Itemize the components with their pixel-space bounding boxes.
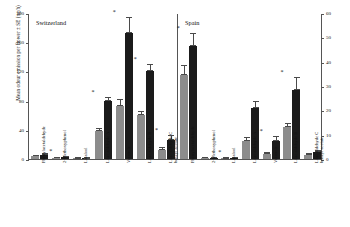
x-axis-label: Lilac aldehyde B [147,132,152,163]
error-bar-cap [126,17,132,18]
error-bar-cap [147,64,153,65]
error-bar-cap [33,155,39,156]
y-tick-label: 120 [17,69,25,74]
significance-asterisk: * [49,148,52,154]
error-bar [129,17,130,33]
bar-gray [95,131,103,159]
bar-group: * [116,13,133,159]
error-bar [56,157,57,158]
bar-group [73,13,90,159]
error-bar [150,64,151,71]
significance-asterisk: * [218,149,221,155]
y2-tick-mark [321,38,324,39]
error-bar-cap [105,97,111,98]
y-tick-label: 40 [19,128,24,133]
bar-gray [242,141,250,159]
bar-gray [180,75,188,159]
error-bar [108,97,109,101]
y2-tick-label: 10 [326,133,331,138]
error-bar-cap [244,137,250,138]
bar-gray [304,155,312,159]
error-bar [255,101,256,108]
bar-group: * [221,13,238,159]
error-bar-cap [105,100,111,101]
y-tick-mark [26,131,29,132]
bar-black [125,33,133,159]
y-tick-mark [26,14,29,15]
x-axis-label: Lilac aldehyde A [105,132,110,163]
x-axis-label: Linalool [83,147,88,163]
x-axis-label: Phenylacetaldehyde [190,126,195,163]
error-bar-cap [294,77,300,78]
error-bar-cap [126,32,132,33]
significance-asterisk: * [92,89,95,95]
x-axis-label: Lilac aldehyde Cbenzyl acetate [314,132,324,163]
error-bar-cap [273,136,279,137]
error-bar [205,157,206,158]
y2-tick-mark [321,111,324,112]
x-axis-label: Lilac aldehyde Cbenzyl acetate [168,132,178,163]
y-tick-mark [26,102,29,103]
y2-tick-label: 40 [326,60,331,65]
x-axis-label: Veratrole [126,146,131,163]
bar-gray [31,156,39,159]
x-axis-label: Linalool [231,147,236,163]
error-bar-cap [253,107,259,108]
bar-gray [116,106,124,159]
error-bar-cap [138,111,144,112]
significance-asterisk: * [113,9,116,15]
y-tick-mark [26,160,29,161]
error-bar-cap [75,157,81,158]
error-bar-cap [253,101,259,102]
error-bar [162,147,163,149]
error-bar-cap [190,45,196,46]
error-bar [308,153,309,154]
x-axis-label: Lilac aldehyde A [252,132,257,163]
error-bar [267,152,268,154]
odour-emission-chart: Mean odour emission per flower ± SE (ng/… [0,0,350,227]
bar-group: * [263,13,280,159]
error-bar [296,77,297,90]
error-bar-cap [202,157,208,158]
significance-asterisk: * [280,69,283,75]
error-bar-cap [223,157,229,158]
y-axis-title: Mean odour emission per flower ± SE (ng/… [15,0,21,133]
error-bar-cap [138,114,144,115]
y2-tick-mark [321,63,324,64]
bar-gray [158,150,166,159]
significance-asterisk: * [134,56,137,62]
error-bar [120,99,121,106]
y-tick-mark [26,43,29,44]
y2-tick-label: 50 [326,35,331,40]
bar-gray [283,127,291,159]
error-bar-cap [181,74,187,75]
x-axis-label: 2-Methoxyphenol [211,130,216,163]
y2-tick-label: 0 [326,157,329,162]
error-bar-cap [117,99,123,100]
x-axis-label: Veratrole [273,146,278,163]
error-bar [141,111,142,115]
y-tick-label: 160 [17,40,25,45]
significance-asterisk: * [155,127,158,133]
y-tick-label: 200 [17,11,25,16]
error-bar [287,123,288,127]
error-bar [193,33,194,45]
y-tick-label: 80 [19,99,24,104]
y2-tick-mark [321,14,324,15]
x-axis-label: 2-Methoxyphenol [62,130,67,163]
error-bar [99,128,100,131]
significance-asterisk: * [177,25,180,31]
y2-tick-label: 20 [326,108,331,113]
error-bar-cap [96,128,102,129]
error-bar-cap [54,157,60,158]
error-bar-cap [117,105,123,106]
significance-asterisk: * [260,128,263,134]
error-bar-cap [96,130,102,131]
y2-tick-label: 30 [326,84,331,89]
error-bar [246,137,247,141]
bar-gray [137,115,145,159]
error-bar-cap [147,70,153,71]
error-bar-cap [294,89,300,90]
y2-tick-mark [321,87,324,88]
error-bar [276,136,277,142]
